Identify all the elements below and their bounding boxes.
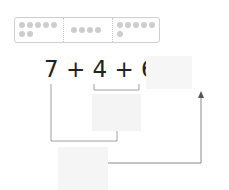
connector-lines: [0, 0, 229, 190]
arrow-head-icon: [198, 91, 204, 98]
bracket-4-6: [94, 84, 139, 90]
arrow-total-to-answer: [108, 97, 201, 163]
connector-7-to-total: [51, 84, 117, 141]
